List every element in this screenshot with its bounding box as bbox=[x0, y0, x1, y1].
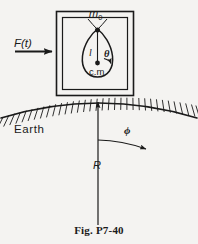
earth-surface-arc bbox=[1, 103, 197, 118]
label-earth: Earth bbox=[14, 124, 45, 136]
label-pendulum-angle: θ bbox=[104, 49, 109, 60]
label-earth-angle: ϕ bbox=[124, 125, 130, 136]
label-pendulum-length: l bbox=[89, 48, 92, 58]
label-applied-force: F(t) bbox=[14, 38, 32, 50]
cart-inner-rectangle bbox=[63, 18, 128, 90]
label-pivot-mass-subscript: 0 bbox=[98, 13, 102, 22]
label-center-of-mass: c.m bbox=[89, 67, 104, 77]
figure-p7-40: m0 F(t) l θ c.m Earth ϕ R Fig. P7-40 bbox=[0, 0, 198, 244]
phi-angle-arrow bbox=[98, 140, 146, 149]
label-pivot-mass: m0 bbox=[89, 8, 102, 22]
center-of-mass-point bbox=[95, 61, 100, 66]
label-pivot-mass-letter: m bbox=[89, 7, 98, 19]
figure-caption: Fig. P7-40 bbox=[0, 225, 198, 236]
label-earth-radius: R bbox=[93, 160, 101, 171]
cart-outer-rectangle bbox=[57, 12, 134, 96]
